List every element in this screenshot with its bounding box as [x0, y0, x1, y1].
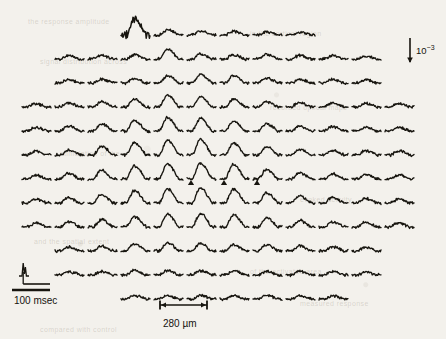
- response-trace: [253, 123, 282, 132]
- response-trace: [220, 270, 249, 276]
- response-trace: [121, 16, 150, 38]
- response-trace: [55, 149, 84, 156]
- response-trace: [55, 55, 84, 61]
- response-trace: [22, 103, 51, 108]
- response-trace: [286, 32, 315, 36]
- response-trace: [286, 126, 315, 132]
- response-trace: [154, 29, 183, 36]
- response-trace: [352, 102, 381, 108]
- response-trace: [352, 150, 381, 156]
- response-trace: [22, 150, 51, 156]
- response-trace: [253, 169, 282, 181]
- response-trace: [319, 126, 348, 132]
- response-trace: [88, 78, 117, 84]
- response-trace: [220, 163, 249, 179]
- response-trace: [286, 79, 315, 85]
- response-trace: [319, 197, 348, 205]
- optical-imaging-figure: the response amplitudein the cortical re…: [0, 0, 446, 339]
- response-trace: [352, 198, 381, 205]
- response-trace: [286, 245, 315, 252]
- response-trace: [187, 188, 216, 204]
- response-trace: [121, 190, 150, 204]
- response-trace: [187, 294, 216, 300]
- amplitude-scalebar-arrowhead: [407, 58, 413, 64]
- response-trace: [319, 221, 348, 228]
- response-trace: [55, 271, 84, 276]
- response-trace: [286, 54, 315, 61]
- response-trace: [187, 213, 216, 228]
- distance-scalebar-label: 280 µm: [163, 318, 197, 329]
- response-trace: [253, 101, 282, 108]
- response-trace: [121, 142, 150, 156]
- response-trace: [352, 174, 381, 180]
- response-trace: [385, 127, 414, 132]
- response-trace: [154, 163, 183, 180]
- response-trace: [385, 223, 414, 229]
- distance-scalebar-arrow: [201, 302, 206, 307]
- response-trace: [352, 271, 381, 276]
- response-trace: [220, 75, 249, 84]
- response-trace: [55, 246, 84, 253]
- response-trace: [88, 169, 117, 180]
- response-trace: [352, 79, 381, 84]
- response-trace: [385, 174, 414, 180]
- response-trace: [253, 147, 282, 157]
- response-trace: [154, 295, 183, 300]
- response-trace: [319, 173, 348, 180]
- response-trace: [22, 126, 51, 132]
- response-trace: [121, 216, 150, 228]
- response-trace: [55, 125, 84, 132]
- response-trace: [154, 270, 183, 276]
- response-trace: [385, 198, 414, 204]
- response-trace: [88, 101, 117, 108]
- response-trace: [22, 198, 51, 204]
- trace-array: [0, 0, 446, 339]
- response-trace: [154, 242, 183, 252]
- response-trace: [286, 149, 315, 156]
- response-trace: [154, 95, 183, 109]
- response-trace: [121, 99, 150, 109]
- response-trace: [286, 102, 315, 108]
- response-trace: [286, 172, 315, 180]
- response-trace: [187, 243, 216, 252]
- response-trace: [187, 117, 216, 132]
- response-trace: [154, 116, 183, 131]
- response-trace: [88, 54, 117, 60]
- response-trace: [220, 121, 249, 132]
- response-trace: [187, 96, 216, 108]
- response-trace: [352, 126, 381, 132]
- response-trace: [253, 31, 282, 36]
- response-trace: [154, 213, 183, 228]
- response-trace: [220, 295, 249, 301]
- response-trace: [220, 30, 249, 36]
- response-trace: [253, 244, 282, 252]
- response-trace: [154, 140, 183, 157]
- stimulus-spike-icon: [19, 263, 29, 276]
- response-trace: [88, 270, 117, 276]
- response-trace: [88, 194, 117, 204]
- response-trace: [319, 150, 348, 156]
- response-trace: [352, 247, 381, 252]
- response-trace: [88, 123, 117, 132]
- electrode-markers-group: [188, 180, 260, 185]
- trace-grid-group: [22, 16, 414, 300]
- response-trace: [187, 74, 216, 84]
- response-trace: [319, 246, 348, 252]
- amplitude-scalebar-value: 10: [416, 45, 427, 56]
- response-trace: [286, 270, 315, 276]
- response-trace: [154, 49, 183, 60]
- response-trace: [319, 295, 348, 300]
- response-trace: [154, 75, 183, 84]
- response-trace: [55, 79, 84, 84]
- response-trace: [121, 295, 150, 300]
- response-trace: [55, 221, 84, 228]
- response-trace: [121, 78, 150, 84]
- response-trace: [55, 102, 84, 108]
- response-trace: [352, 56, 381, 60]
- response-trace: [253, 192, 282, 204]
- response-trace: [121, 54, 150, 61]
- response-trace: [319, 102, 348, 107]
- response-trace: [187, 31, 216, 37]
- response-trace: [253, 270, 282, 276]
- response-trace: [55, 197, 84, 205]
